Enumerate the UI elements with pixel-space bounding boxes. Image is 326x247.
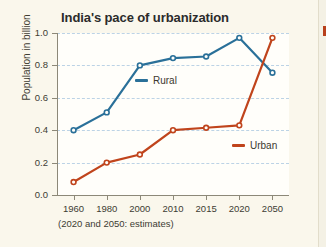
data-point-rural [237,35,242,40]
y-tick-label: 0.2 [8,157,48,168]
data-point-urban [171,128,176,133]
data-point-rural [71,128,76,133]
data-point-urban [104,160,109,165]
y-tick-label: 0.0 [8,189,48,200]
chart-figure: India's pace of urbanization 1.00.80.60.… [0,0,326,247]
legend-item-urban: Urban [232,140,277,151]
data-point-rural [171,56,176,61]
legend-swatch-urban [232,144,245,147]
data-point-urban [137,152,142,157]
data-point-urban [71,180,76,185]
data-point-rural [270,70,275,75]
x-tick-label: 2050 [252,203,292,214]
data-point-rural [137,63,142,68]
data-point-urban [237,123,242,128]
legend-item-rural: Rural [135,75,177,86]
legend-swatch-rural [135,79,148,82]
chart-footnote: (2020 and 2050: estimates) [58,218,174,229]
x-axis-line [57,195,289,196]
y-tick-label: 0.4 [8,124,48,135]
legend-label-urban: Urban [250,140,277,151]
data-point-urban [270,35,275,40]
data-point-rural [104,110,109,115]
series-lines-group [57,33,289,195]
legend-label-rural: Rural [153,75,177,86]
data-point-urban [204,125,209,130]
page-right-edge [318,0,326,247]
y-axis-label: Population in billion [21,0,32,118]
chart-title: India's pace of urbanization [0,10,290,25]
data-point-rural [204,54,209,59]
